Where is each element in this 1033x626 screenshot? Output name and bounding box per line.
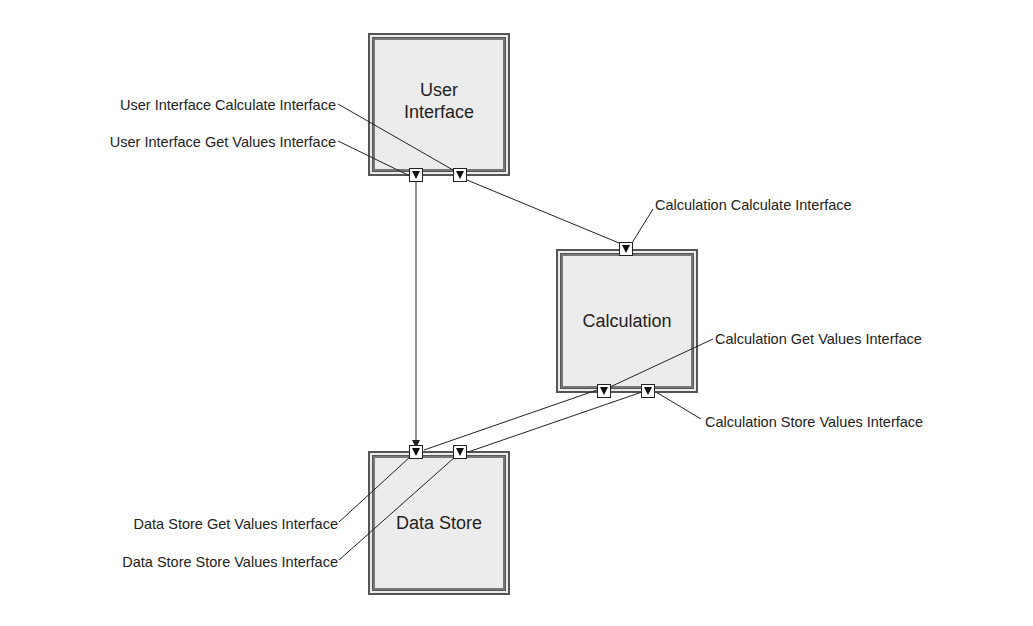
leader-calc-calculate <box>632 209 653 243</box>
leader-ds-get-values <box>339 456 411 522</box>
port-ds-get-values[interactable] <box>409 445 423 459</box>
port-calc-get-values[interactable] <box>597 384 611 398</box>
port-calc-store-values[interactable] <box>641 384 655 398</box>
leader-calc-get-values <box>610 339 713 387</box>
connection-ui-calculate-to-calc-calculate <box>467 180 619 243</box>
diagram-canvas: User Interface Calculation Data Store Us… <box>0 0 1033 626</box>
leader-ui-get-values <box>338 141 410 176</box>
port-ui-get-values[interactable] <box>409 168 423 182</box>
connection-calc-get-values-to-ds-get-values <box>424 390 597 450</box>
port-ui-calculate[interactable] <box>453 168 467 182</box>
port-calc-calculate[interactable] <box>619 242 633 256</box>
leader-ds-store-values <box>339 457 455 560</box>
leader-calc-store-values <box>656 392 701 419</box>
connector-lines <box>0 0 1033 626</box>
port-ds-store-values[interactable] <box>453 445 467 459</box>
leader-ui-calculate <box>338 104 460 174</box>
connection-calc-store-values-to-ds-store-values <box>468 392 642 452</box>
